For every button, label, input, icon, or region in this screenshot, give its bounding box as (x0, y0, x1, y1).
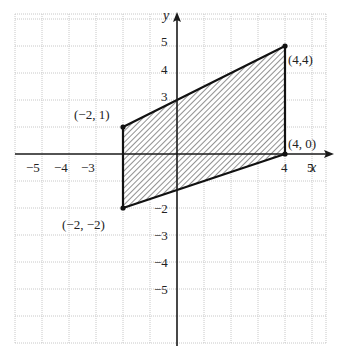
y-tick-label: −4 (154, 255, 168, 270)
vertex-label: (−2, 1) (74, 107, 110, 122)
x-tick-label: −3 (81, 160, 95, 175)
y-tick-label: 4 (161, 62, 168, 77)
y-tick-label: 3 (161, 89, 168, 104)
y-tick-label: 5 (161, 34, 168, 49)
y-tick-label: −2 (154, 201, 168, 216)
vertex-label: (4,4) (288, 52, 313, 67)
vertex-label: (4, 0) (288, 136, 316, 151)
vertex-point (282, 43, 287, 48)
y-tick-label: −5 (154, 282, 168, 297)
x-tick-label: −4 (54, 160, 68, 175)
x-tick-label: 5 (307, 160, 314, 175)
vertex-point (120, 205, 125, 210)
vertex-point (120, 124, 125, 129)
vertex-label: (−2, −2) (62, 217, 105, 232)
x-tick-label: −5 (26, 160, 40, 175)
vertex-point (282, 151, 287, 156)
coordinate-plane: y x −5 −4 −3 4 5 5 4 3 −2 −3 −4 −5 (−2, … (0, 0, 352, 363)
y-axis-label: y (161, 8, 170, 23)
y-tick-label: −3 (154, 228, 168, 243)
x-tick-label: 4 (281, 160, 288, 175)
